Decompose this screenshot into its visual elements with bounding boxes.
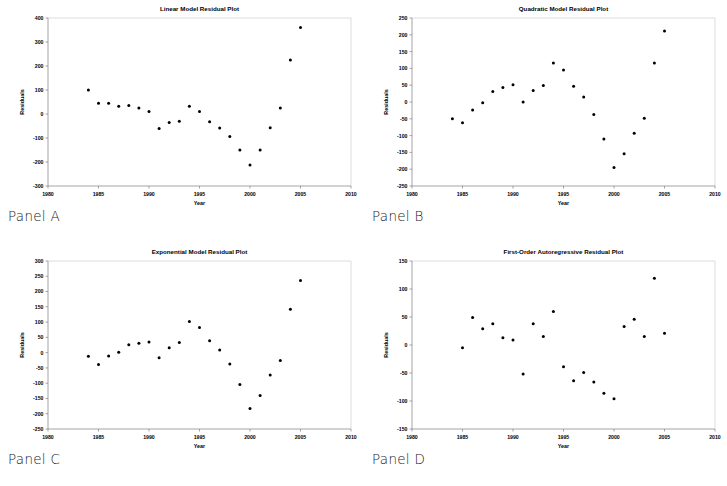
panel-d-x-axis-title: Year xyxy=(558,443,570,449)
panel-b: -250-200-150-100-50050100150200250198019… xyxy=(364,0,727,243)
panel-d-y-tick-label: 50 xyxy=(402,314,408,320)
panel-c-y-tick-label: -150 xyxy=(33,395,43,401)
data-point xyxy=(97,363,100,366)
data-point xyxy=(259,394,262,397)
data-point xyxy=(127,104,130,107)
data-point xyxy=(218,348,221,351)
panel-a-x-tick-label: 1980 xyxy=(42,191,54,197)
data-point xyxy=(623,152,626,155)
panel-a-x-axis-title: Year xyxy=(194,200,206,206)
panel-b-x-tick-label: 2010 xyxy=(709,191,721,197)
data-point xyxy=(299,279,302,282)
data-point xyxy=(249,407,252,410)
data-point xyxy=(289,308,292,311)
data-point xyxy=(218,126,221,129)
panel-b-x-tick-label: 1980 xyxy=(406,191,418,197)
data-point xyxy=(299,26,302,29)
data-point xyxy=(461,121,464,124)
data-point xyxy=(512,83,515,86)
data-point xyxy=(137,107,140,110)
data-point xyxy=(451,117,454,120)
panel-c-y-tick-label: -50 xyxy=(36,365,44,371)
data-point xyxy=(259,149,262,152)
panel-d-x-tick-label: 2000 xyxy=(608,434,620,440)
panel-c-chart: -250-200-150-100-50050100150200250300198… xyxy=(0,243,363,455)
data-point xyxy=(542,84,545,87)
panel-d-x-tick-label: 2005 xyxy=(659,434,671,440)
data-point xyxy=(562,69,565,72)
panel-c-svg: -250-200-150-100-50050100150200250300198… xyxy=(0,243,363,455)
panel-c-x-axis-title: Year xyxy=(194,443,206,449)
data-point xyxy=(643,117,646,120)
panel-c: -250-200-150-100-50050100150200250300198… xyxy=(0,243,363,486)
panel-d-chart: -150-100-5005010015019801985199019952000… xyxy=(364,243,727,455)
panel-a-y-tick-label: 200 xyxy=(35,63,44,69)
data-point xyxy=(158,356,161,359)
data-point xyxy=(602,392,605,395)
panel-c-y-tick-label: -100 xyxy=(33,380,43,386)
panel-a-y-tick-label: -300 xyxy=(33,183,43,189)
panel-d-y-axis-title: Residuals xyxy=(383,332,389,357)
data-point xyxy=(127,343,130,346)
panel-d-y-tick-label: 0 xyxy=(405,342,408,348)
data-point xyxy=(188,320,191,323)
data-point xyxy=(572,85,575,88)
panel-d-x-tick-label: 2010 xyxy=(709,434,721,440)
data-point xyxy=(208,120,211,123)
panel-a-y-tick-label: 400 xyxy=(35,15,44,21)
panel-c-x-tick-label: 2000 xyxy=(244,434,256,440)
panel-b-chart: -250-200-150-100-50050100150200250198019… xyxy=(364,0,727,212)
residual-plot-figure: -300-200-1000100200300400198019851990199… xyxy=(0,0,727,486)
data-point xyxy=(249,164,252,167)
panel-b-x-tick-label: 1985 xyxy=(457,191,469,197)
data-point xyxy=(158,127,161,130)
panel-d-x-tick-label: 1985 xyxy=(457,434,469,440)
panel-a-y-tick-label: -100 xyxy=(33,135,43,141)
panel-c-y-tick-label: 50 xyxy=(38,334,44,340)
data-point xyxy=(522,373,525,376)
panel-c-y-tick-label: 200 xyxy=(35,288,44,294)
panel-b-caption: Panel B xyxy=(372,208,424,224)
panel-b-y-tick-label: 100 xyxy=(399,65,408,71)
data-point xyxy=(471,316,474,319)
data-point xyxy=(168,121,171,124)
panel-c-y-tick-label: 250 xyxy=(35,273,44,279)
panel-b-plot-frame xyxy=(412,18,715,186)
data-point xyxy=(491,322,494,325)
panel-a: -300-200-1000100200300400198019851990199… xyxy=(0,0,363,243)
panel-b-svg: -250-200-150-100-50050100150200250198019… xyxy=(364,0,727,212)
data-point xyxy=(633,318,636,321)
panel-c-x-tick-label: 1995 xyxy=(194,434,206,440)
data-point xyxy=(501,336,504,339)
data-point xyxy=(228,362,231,365)
data-point xyxy=(633,132,636,135)
panel-b-y-tick-label: -150 xyxy=(397,149,407,155)
data-point xyxy=(97,102,100,105)
panel-a-x-tick-label: 1990 xyxy=(143,191,155,197)
data-point xyxy=(481,101,484,104)
panel-b-y-tick-label: 50 xyxy=(402,82,408,88)
panel-c-title: Exponential Model Residual Plot xyxy=(152,248,248,255)
data-point xyxy=(279,107,282,110)
data-point xyxy=(582,371,585,374)
panel-b-y-tick-label: -100 xyxy=(397,133,407,139)
panel-b-y-tick-label: -250 xyxy=(397,183,407,189)
panel-a-y-tick-label: 100 xyxy=(35,87,44,93)
panel-a-x-tick-label: 1995 xyxy=(194,191,206,197)
data-point xyxy=(117,105,120,108)
data-point xyxy=(168,346,171,349)
data-point xyxy=(643,335,646,338)
data-point xyxy=(208,339,211,342)
data-point xyxy=(481,327,484,330)
panel-a-x-tick-label: 2000 xyxy=(244,191,256,197)
panel-b-x-tick-label: 2000 xyxy=(608,191,620,197)
panel-b-y-tick-label: 150 xyxy=(399,49,408,55)
data-point xyxy=(238,383,241,386)
panel-b-x-tick-label: 1995 xyxy=(558,191,570,197)
panel-b-y-tick-label: 250 xyxy=(399,15,408,21)
panel-d-caption: Panel D xyxy=(372,451,425,467)
data-point xyxy=(653,277,656,280)
data-point xyxy=(107,354,110,357)
data-point xyxy=(228,135,231,138)
data-point xyxy=(238,149,241,152)
